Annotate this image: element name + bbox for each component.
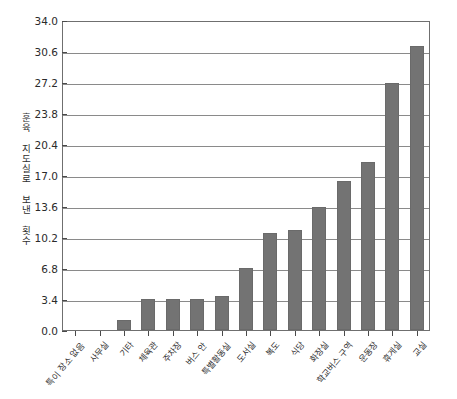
x-axis-tick-mark — [173, 331, 174, 336]
x-axis-tick-label: 식당 — [287, 339, 306, 359]
x-axis-tick-label: 주차장 — [159, 339, 184, 365]
bar — [385, 83, 399, 330]
x-axis-tick-mark — [392, 331, 393, 336]
y-axis-tick-label: 27.2 — [28, 77, 58, 89]
bar-slot — [63, 22, 87, 330]
x-axis-tick-label: 사무실 — [86, 339, 111, 365]
bar-slot — [331, 22, 355, 330]
bars-layer — [63, 22, 429, 330]
bar-slot — [112, 22, 136, 330]
y-axis-tick-label: 20.4 — [28, 139, 58, 151]
bar-slot — [356, 22, 380, 330]
bar-slot — [185, 22, 209, 330]
bar-slot — [136, 22, 160, 330]
bar — [239, 268, 253, 330]
x-axis-tick-label: 체육관 — [135, 339, 160, 365]
x-axis-tick-mark — [222, 331, 223, 336]
y-axis-tick-label: 34.0 — [28, 15, 58, 27]
bar — [288, 230, 302, 330]
bar — [190, 299, 204, 330]
bar — [410, 46, 424, 330]
x-axis-tick-mark — [124, 331, 125, 336]
x-axis-tick-mark — [368, 331, 369, 336]
x-axis-tick-label: 특이 장소 없음 — [43, 339, 86, 387]
x-axis-tick-mark — [344, 331, 345, 336]
x-axis-tick-label: 기타 — [116, 339, 135, 359]
x-axis-tick-mark — [417, 331, 418, 336]
y-axis-tick-label: 30.6 — [28, 46, 58, 58]
x-axis-tick-label: 휴게실 — [379, 339, 404, 365]
x-axis-tick-mark — [148, 331, 149, 336]
bar-slot — [87, 22, 111, 330]
x-axis-tick-label: 복도 — [262, 339, 281, 359]
y-axis-tick-label: 0.0 — [28, 325, 58, 337]
bar-slot — [283, 22, 307, 330]
y-axis-tick-label: 10.2 — [28, 232, 58, 244]
y-axis-tick-mark — [62, 331, 67, 332]
bar-slot — [209, 22, 233, 330]
bar-slot — [258, 22, 282, 330]
x-axis-tick-mark — [75, 331, 76, 336]
y-axis-tick-label: 3.4 — [28, 294, 58, 306]
bar — [215, 296, 229, 330]
x-axis-tick-label: 도서실 — [233, 339, 258, 365]
bar — [141, 299, 155, 330]
y-axis-tick-label: 17.0 — [28, 170, 58, 182]
bar — [361, 162, 375, 330]
bar-slot — [307, 22, 331, 330]
y-axis-tick-label: 23.8 — [28, 108, 58, 120]
x-axis-tick-label: 교실 — [409, 339, 428, 359]
x-axis-tick-label: 운동장 — [355, 339, 380, 365]
bar — [117, 320, 131, 330]
y-axis-tick-label: 13.6 — [28, 201, 58, 213]
bar — [263, 233, 277, 330]
x-axis-tick-mark — [295, 331, 296, 336]
x-axis-tick-mark — [197, 331, 198, 336]
x-axis-tick-mark — [270, 331, 271, 336]
bar-slot — [405, 22, 429, 330]
bar-slot — [380, 22, 404, 330]
x-axis-tick-mark — [246, 331, 247, 336]
bar — [312, 207, 326, 330]
bar — [337, 181, 351, 330]
bar-slot — [234, 22, 258, 330]
bar-chart: 훈육 지도실로 보낸 횟수 0.03.46.810.213.617.020.42… — [0, 0, 457, 399]
bar — [166, 299, 180, 330]
y-axis-tick-labels: 0.03.46.810.213.617.020.423.827.230.634.… — [22, 21, 58, 331]
y-axis-tick-label: 6.8 — [28, 263, 58, 275]
x-axis-tick-mark — [100, 331, 101, 336]
x-axis-tick-mark — [319, 331, 320, 336]
bar-slot — [161, 22, 185, 330]
